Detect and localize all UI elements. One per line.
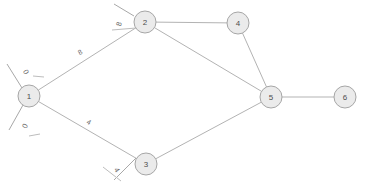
graph-node-1[interactable]: 1 [18,85,40,107]
edge-weight-1-3: 4 [86,118,93,126]
graph-node-4[interactable]: 4 [227,12,249,34]
node-label-4: 4 [236,19,241,28]
edge-2-4 [156,22,227,23]
edge-weight-1-2: 8 [76,48,83,56]
edge-1-2 [38,28,135,90]
edges-layer [38,22,334,159]
graph-node-5[interactable]: 5 [260,86,282,108]
graph-diagram-canvas: 123456 840084 [0,0,374,193]
stub-line-s2-upper [114,4,134,16]
graph-node-6[interactable]: 6 [334,86,356,108]
graph-node-3[interactable]: 3 [135,153,157,175]
graph-svg: 123456 840084 [0,0,374,193]
stub-line-s1-upper [7,64,22,88]
node-label-1: 1 [27,92,32,101]
nodes-layer: 123456 [18,11,356,175]
stub-label-s2-upper: 8 [114,21,124,28]
edge-3-5 [156,102,262,159]
stub-tick-s1-upper [33,76,44,77]
node-label-3: 3 [144,160,149,169]
node-label-2: 2 [143,18,148,27]
node-label-6: 6 [343,93,348,102]
node-label-5: 5 [269,93,274,102]
graph-node-2[interactable]: 2 [134,11,156,33]
stub-label-s1-upper: 0 [21,68,31,76]
edge-2-5 [154,28,261,92]
stub-label-s1-lower: 0 [20,122,30,130]
edge-1-3 [39,102,137,159]
stub-tick-s1-lower [29,134,40,136]
edge-4-5 [242,33,266,87]
